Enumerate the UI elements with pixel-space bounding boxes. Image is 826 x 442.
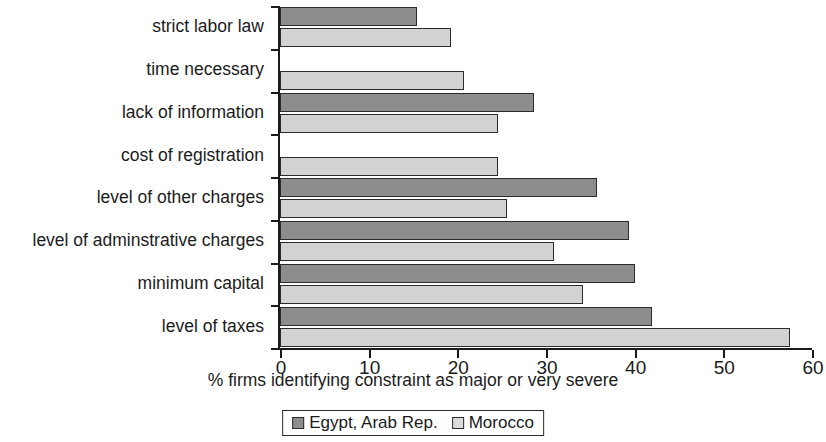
y-axis-category-labels: strict labor lawtime necessarylack of in… [0, 0, 272, 348]
bar [280, 199, 507, 218]
bar [280, 28, 451, 47]
bar [280, 264, 635, 283]
y-axis-category-label: cost of registration [121, 147, 264, 165]
bar [280, 242, 554, 261]
bar [280, 71, 464, 90]
legend-label: Morocco [469, 414, 534, 431]
y-axis-tick [271, 348, 280, 350]
y-axis-tick [271, 263, 280, 265]
x-axis-title: % firms identifying constraint as major … [0, 372, 826, 390]
y-axis-category-label: level of other charges [97, 189, 264, 207]
bar [280, 114, 498, 133]
legend-label: Egypt, Arab Rep. [309, 414, 438, 431]
bar [280, 157, 498, 176]
y-axis-tick [271, 305, 280, 307]
bar-chart: strict labor lawtime necessarylack of in… [0, 0, 826, 442]
plot-area: 0102030405060 [280, 6, 812, 348]
bar [280, 328, 790, 347]
y-axis-tick [271, 177, 280, 179]
legend-swatch-icon [452, 417, 464, 429]
legend-swatch-icon [292, 417, 304, 429]
chart-legend: Egypt, Arab Rep.Morocco [282, 410, 544, 436]
y-axis-category-label: minimum capital [138, 275, 264, 293]
bar [280, 93, 534, 112]
y-axis-category-label: lack of information [122, 104, 264, 122]
y-axis-category-label: level of taxes [162, 318, 264, 336]
bar [280, 221, 629, 240]
y-axis-tick [271, 92, 280, 94]
y-axis-tick [271, 49, 280, 51]
y-axis-category-label: level of adminstrative charges [33, 232, 265, 250]
legend-entry[interactable]: Morocco [452, 414, 534, 431]
bar [280, 285, 583, 304]
y-axis-tick [271, 134, 280, 136]
bar [280, 7, 417, 26]
y-axis-category-label: time necessary [146, 61, 264, 79]
bar [280, 178, 597, 197]
y-axis-tick [271, 220, 280, 222]
legend-entry[interactable]: Egypt, Arab Rep. [292, 414, 438, 431]
y-axis-tick [271, 6, 280, 8]
bar [280, 307, 652, 326]
y-axis-category-label: strict labor law [152, 18, 264, 36]
x-axis-line [278, 348, 812, 350]
